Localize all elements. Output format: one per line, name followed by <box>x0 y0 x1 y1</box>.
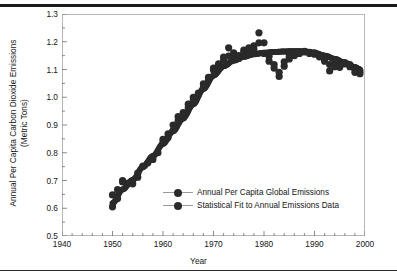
x-tick-label: 1940 <box>42 239 82 249</box>
legend-marker-icon <box>163 187 193 198</box>
x-tick-label: 1980 <box>244 239 284 249</box>
x-tick-label: 1970 <box>194 239 234 249</box>
top-rule <box>0 4 397 7</box>
chart-legend: Annual Per Capita Global Emissions Stati… <box>163 186 339 212</box>
legend-item-fit: Statistical Fit to Annual Emissions Data <box>163 199 339 212</box>
x-tick-label: 1960 <box>143 239 183 249</box>
y-axis-title-line2: (Metric Tons) <box>19 8 30 238</box>
y-tick-label: 1.3 <box>32 9 58 19</box>
y-tick-label: 0.6 <box>32 203 58 213</box>
y-axis-title: Annual Per Capita Carbon Dioxide Emissio… <box>8 8 30 238</box>
y-tick-label: 0.8 <box>32 148 58 158</box>
legend-label: Statistical Fit to Annual Emissions Data <box>197 200 339 211</box>
legend-marker-icon <box>163 200 193 211</box>
y-tick-label: 1.0 <box>32 92 58 102</box>
y-tick-labels: 0.50.60.70.80.91.01.11.21.3 <box>30 0 58 276</box>
legend-item-emissions: Annual Per Capita Global Emissions <box>163 186 339 199</box>
x-tick-label: 1950 <box>93 239 133 249</box>
y-tick-label: 0.7 <box>32 176 58 186</box>
y-tick-label: 0.9 <box>32 120 58 130</box>
x-tick-label: 1990 <box>295 239 335 249</box>
fit-series <box>110 48 363 206</box>
scatter-series <box>109 29 364 210</box>
x-axis-title: Year <box>0 256 397 266</box>
figure-container: Annual Per Capita Carbon Dioxide Emissio… <box>0 0 397 276</box>
bottom-rule <box>0 270 397 271</box>
x-tick-label: 2000 <box>345 239 385 249</box>
x-tick-labels: 1940195019601970198019902000 <box>0 239 397 253</box>
y-tick-label: 1.2 <box>32 37 58 47</box>
legend-label: Annual Per Capita Global Emissions <box>197 187 329 198</box>
y-tick-label: 1.1 <box>32 65 58 75</box>
y-axis-title-line1: Annual Per Capita Carbon Dioxide Emissio… <box>8 8 19 238</box>
